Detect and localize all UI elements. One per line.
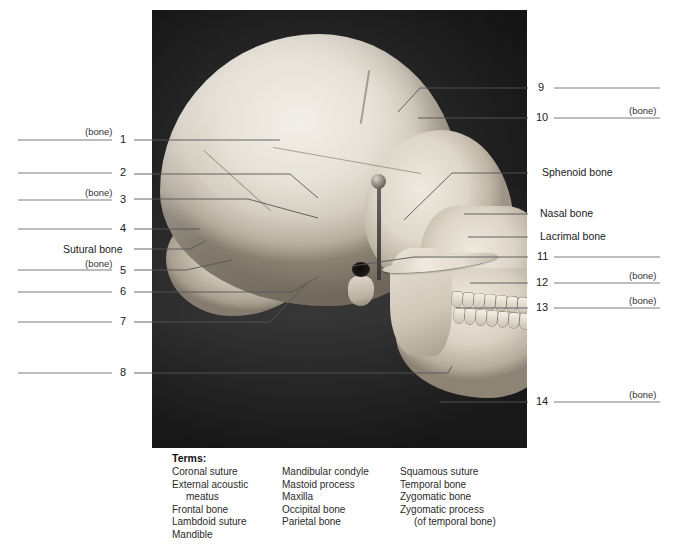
terms-column-1: Coronal suture External acoustic meatus … [172, 466, 282, 542]
term-item[interactable]: Coronal suture [172, 466, 282, 479]
term-item[interactable]: Occipital bone [282, 504, 400, 517]
label-number-4[interactable]: 4 [120, 223, 126, 234]
label-number-8[interactable]: 8 [120, 367, 126, 378]
terms-title: Terms: [172, 452, 522, 465]
label-number-3[interactable]: 3 [120, 194, 126, 205]
terms-column-3: Squamous suture Temporal bone Zygomatic … [400, 466, 522, 542]
term-item-continuation[interactable]: meatus [172, 491, 282, 504]
bone-tag-5: (bone) [85, 259, 112, 269]
term-item[interactable]: Maxilla [282, 491, 400, 504]
term-item[interactable]: External acoustic [172, 479, 282, 492]
term-item[interactable]: Mastoid process [282, 479, 400, 492]
external-acoustic-meatus [352, 262, 370, 277]
label-number-7[interactable]: 7 [120, 316, 126, 327]
label-nasal-bone: Nasal bone [540, 208, 593, 219]
bone-tag-3: (bone) [85, 188, 112, 198]
term-item[interactable]: Frontal bone [172, 504, 282, 517]
label-number-12[interactable]: 12 [536, 277, 548, 288]
label-number-10[interactable]: 10 [536, 112, 548, 123]
term-item[interactable]: Temporal bone [400, 479, 522, 492]
figure-page: (bone) 1 2 (bone) 3 4 Sutural bone (bone… [0, 0, 676, 544]
label-number-6[interactable]: 6 [120, 286, 126, 297]
term-item[interactable]: Mandibular condyle [282, 466, 400, 479]
term-item[interactable]: Zygomatic process [400, 504, 522, 517]
label-sphenoid-bone: Sphenoid bone [542, 167, 613, 178]
skull-photograph [152, 10, 527, 448]
label-number-5[interactable]: 5 [120, 265, 126, 276]
pointer-rod [377, 180, 381, 280]
term-item[interactable]: Mandible [172, 529, 282, 542]
bone-tag-14: (bone) [629, 390, 656, 400]
term-item[interactable]: Zygomatic bone [400, 491, 522, 504]
bone-tag-10: (bone) [629, 106, 656, 116]
bone-tag-12: (bone) [629, 271, 656, 281]
terms-columns: Coronal suture External acoustic meatus … [172, 466, 522, 542]
bone-tag-13: (bone) [629, 296, 656, 306]
terms-block: Terms: Coronal suture External acoustic … [172, 452, 522, 542]
label-number-11[interactable]: 11 [537, 251, 548, 262]
terms-column-2: Mandibular condyle Mastoid process Maxil… [282, 466, 400, 542]
label-number-13[interactable]: 13 [536, 302, 548, 313]
term-item[interactable]: Parietal bone [282, 516, 400, 529]
term-item-continuation[interactable]: (of temporal bone) [400, 516, 522, 529]
label-number-1[interactable]: 1 [120, 134, 126, 145]
label-lacrimal-bone: Lacrimal bone [540, 231, 606, 242]
label-sutural-bone: Sutural bone [63, 244, 123, 255]
label-number-2[interactable]: 2 [120, 167, 126, 178]
label-number-14[interactable]: 14 [536, 396, 548, 407]
term-item[interactable]: Lambdoid suture [172, 516, 282, 529]
term-item[interactable]: Squamous suture [400, 466, 522, 479]
bone-tag-1: (bone) [85, 127, 112, 137]
label-number-9[interactable]: 9 [538, 82, 544, 93]
pointer-rod-head [371, 174, 386, 189]
